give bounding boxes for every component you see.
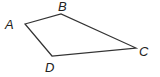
vertex-label-c: C — [139, 44, 149, 59]
vertex-label-d: D — [45, 60, 54, 75]
quadrilateral-abcd — [25, 14, 136, 56]
vertex-label-a: A — [4, 17, 14, 32]
quadrilateral-diagram: A B C D — [0, 0, 160, 77]
vertex-label-b: B — [58, 0, 67, 14]
